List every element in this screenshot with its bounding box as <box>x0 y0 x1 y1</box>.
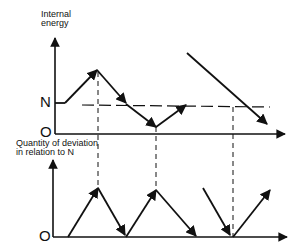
connector-lines <box>98 72 233 237</box>
energy-fall-arrow-2 <box>126 104 156 127</box>
deviation-rise-arrow-2 <box>126 190 156 237</box>
n-level-dashed-line <box>82 105 270 107</box>
bottom-y-axis-label-line2: in relation to N <box>16 148 98 157</box>
bottom-chart <box>53 160 287 237</box>
deviation-fall-arrow-2 <box>156 190 196 236</box>
energy-fall-arrow-1 <box>97 70 126 103</box>
energy-rise-arrow-2 <box>156 105 186 127</box>
top-y-axis-label: Internal energy <box>41 10 71 29</box>
n-level-label: N <box>40 94 51 110</box>
bottom-origin-label: O <box>39 228 51 244</box>
top-chart <box>55 38 285 134</box>
deviation-fall-arrow-1 <box>98 188 125 235</box>
energy-rise-arrow-1 <box>65 70 97 103</box>
bottom-y-axis-label: Quantity of deviation in relation to N <box>16 139 98 158</box>
energy-fall-arrow-3 <box>187 53 267 124</box>
deviation-rise-arrow-3 <box>233 190 270 237</box>
deviation-fall-arrow-3 <box>203 188 230 235</box>
deviation-rise-arrow-1 <box>68 188 98 237</box>
top-y-axis-label-line2: energy <box>41 19 71 28</box>
